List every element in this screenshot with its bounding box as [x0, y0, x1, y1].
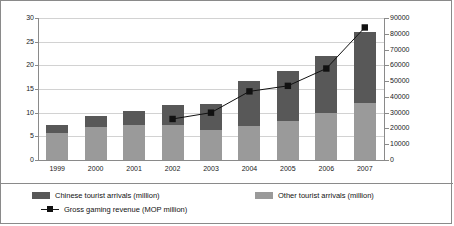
- right-axis-tick-mark: [385, 144, 389, 145]
- legend-label-other: Other tourist arrivals (million): [278, 191, 374, 200]
- legend-item-other[interactable]: Other tourist arrivals (million): [255, 191, 374, 200]
- right-axis-tick-mark: [385, 113, 389, 114]
- x-axis-tick-label: 2007: [345, 164, 385, 173]
- left-axis-tick-label: 20: [5, 61, 34, 69]
- left-axis-tick-label: 10: [5, 109, 34, 117]
- left-axis-tick-label: 15: [5, 85, 34, 93]
- revenue-data-point-marker[interactable]: [323, 65, 329, 71]
- right-axis-line: [384, 18, 385, 161]
- bottom-axis-line: [38, 160, 385, 161]
- x-axis-tick-label: 2001: [114, 164, 154, 173]
- right-axis-tick-mark: [385, 160, 389, 161]
- x-axis-tick-label: 2000: [76, 164, 116, 173]
- right-axis-tick-label: 50000: [390, 77, 409, 85]
- x-axis-tick-label: 2004: [229, 164, 269, 173]
- right-axis-tick-mark: [385, 65, 389, 66]
- x-axis-tick-label: 1999: [37, 164, 77, 173]
- right-axis-tick-label: 20000: [390, 124, 409, 132]
- right-axis-tick-label: 70000: [390, 46, 409, 54]
- right-axis-tick-mark: [385, 50, 389, 51]
- left-axis-tick-mark: [35, 42, 38, 43]
- chart-container: 051015202530 010000200003000040000500006…: [0, 0, 452, 224]
- left-axis-tick-mark: [35, 160, 38, 161]
- revenue-data-point-marker[interactable]: [246, 88, 252, 94]
- right-axis-tick-mark: [385, 128, 389, 129]
- right-axis-tick-mark: [385, 81, 389, 82]
- legend-divider: [1, 183, 453, 184]
- revenue-line-path: [173, 27, 365, 119]
- right-axis-tick-label: 0: [390, 156, 394, 164]
- left-axis-tick-mark: [35, 65, 38, 66]
- revenue-data-point-marker[interactable]: [169, 116, 175, 122]
- right-axis-tick-mark: [385, 18, 389, 19]
- right-axis-tick-mark: [385, 97, 389, 98]
- left-axis-tick-label: 30: [5, 14, 34, 22]
- right-axis-tick-label: 30000: [390, 109, 409, 117]
- right-axis-tick-label: 40000: [390, 93, 409, 101]
- left-axis-tick-mark: [35, 18, 38, 19]
- x-axis-tick-label: 2005: [268, 164, 308, 173]
- legend-item-chinese[interactable]: Chinese tourist arrivals (million): [32, 191, 160, 200]
- x-axis-tick-label: 2002: [153, 164, 193, 173]
- left-axis-tick-label: 0: [5, 156, 34, 164]
- right-axis-tick-label: 60000: [390, 61, 409, 69]
- legend-label-chinese: Chinese tourist arrivals (million): [55, 191, 160, 200]
- x-axis-labels: 199920002001200220032004200520062007: [38, 164, 384, 176]
- left-axis-tick-label: 25: [5, 38, 34, 46]
- x-axis-tick-label: 2006: [306, 164, 346, 173]
- right-axis-tick-mark: [385, 34, 389, 35]
- left-axis-tick-mark: [35, 89, 38, 90]
- left-axis-tick-mark: [35, 136, 38, 137]
- right-axis-tick-label: 80000: [390, 30, 409, 38]
- left-axis-tick-label: 5: [5, 132, 34, 140]
- revenue-data-point-marker[interactable]: [208, 109, 214, 115]
- right-axis-tick-label: 90000: [390, 14, 409, 22]
- gross-gaming-revenue-line: [38, 18, 384, 160]
- x-axis-tick-label: 2003: [191, 164, 231, 173]
- dark-gray-swatch-icon: [32, 192, 50, 199]
- left-axis-tick-mark: [35, 113, 38, 114]
- light-gray-swatch-icon: [255, 192, 273, 199]
- revenue-data-point-marker[interactable]: [285, 83, 291, 89]
- revenue-data-point-marker[interactable]: [362, 24, 368, 30]
- line-square-marker-icon: [41, 206, 59, 213]
- chart-legend: Chinese tourist arrivals (million) Other…: [1, 183, 453, 223]
- right-axis-tick-label: 10000: [390, 140, 409, 148]
- legend-item-revenue[interactable]: Gross gaming revenue (MOP million): [41, 205, 187, 214]
- legend-label-revenue: Gross gaming revenue (MOP million): [64, 205, 187, 214]
